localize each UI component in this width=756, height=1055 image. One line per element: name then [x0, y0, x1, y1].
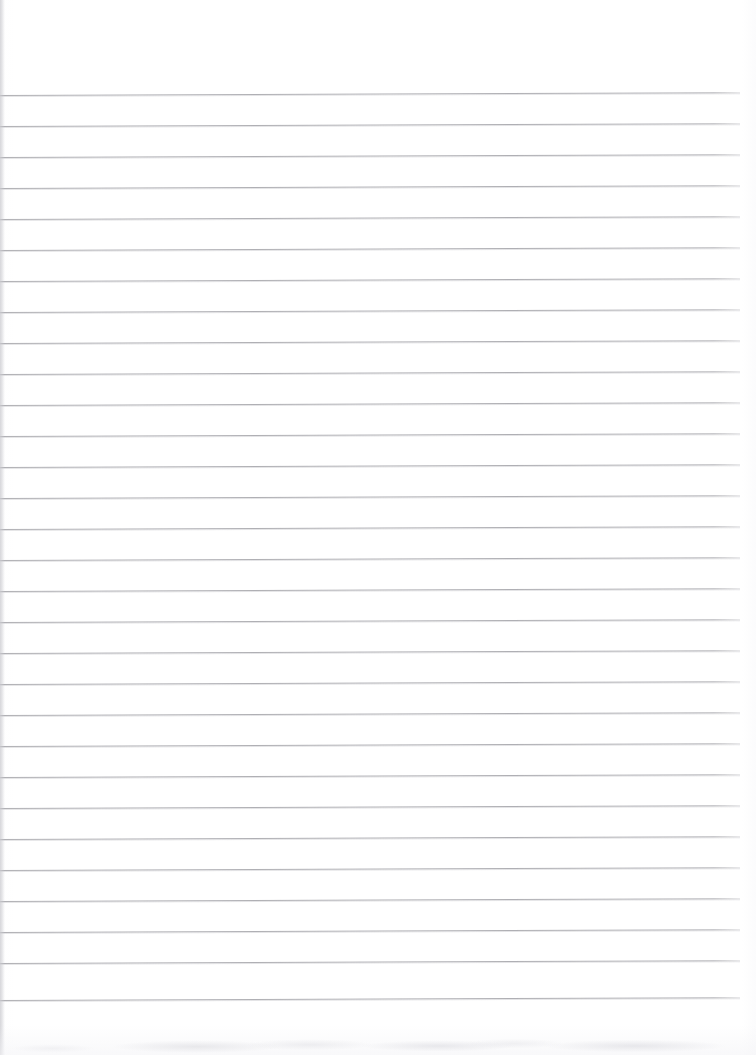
- ruled-line: [0, 867, 740, 871]
- ruled-line: [0, 526, 740, 530]
- ruled-line: [0, 495, 740, 499]
- ruled-line: [0, 774, 740, 778]
- ruled-line: [0, 588, 740, 592]
- ruled-line: [0, 681, 740, 685]
- ruled-line: [0, 278, 740, 282]
- ruled-line: [0, 340, 740, 344]
- ruled-line: [0, 123, 740, 127]
- ruled-line: [0, 309, 740, 313]
- left-edge-scan-shadow: [0, 0, 5, 1055]
- ruled-line: [0, 433, 740, 437]
- ruled-line: [0, 557, 740, 561]
- ruled-line: [0, 997, 740, 1001]
- ruled-line: [0, 898, 740, 902]
- ruled-line: [0, 216, 740, 220]
- ruled-line: [0, 402, 740, 406]
- ruled-line: [0, 805, 740, 809]
- ruled-line: [0, 619, 740, 623]
- ruled-lines-layer: [0, 0, 756, 1055]
- paper-surface: [0, 0, 756, 1055]
- ruled-line: [0, 712, 740, 716]
- scanned-page: [0, 0, 756, 1055]
- ruled-line: [0, 929, 740, 933]
- top-blank-margin: [0, 0, 756, 94]
- ruled-line: [0, 185, 740, 189]
- ruled-line: [0, 650, 740, 654]
- bottom-scan-noise-artifact: [0, 1025, 756, 1055]
- ruled-line: [0, 371, 740, 375]
- ruled-line: [0, 960, 740, 964]
- ruled-line: [0, 154, 740, 158]
- ruled-line: [0, 743, 740, 747]
- ruled-line: [0, 836, 740, 840]
- ruled-line: [0, 247, 740, 251]
- ruled-line: [0, 464, 740, 468]
